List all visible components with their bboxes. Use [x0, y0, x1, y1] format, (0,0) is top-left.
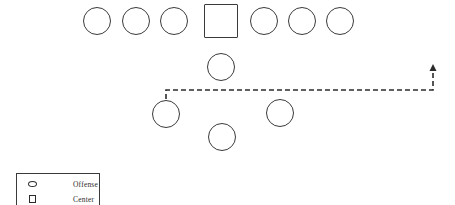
football-play-diagram: Offense Center [0, 0, 455, 205]
legend-item-center: Center [17, 192, 99, 205]
legend: Offense Center [16, 173, 100, 205]
motion-route-path [166, 68, 433, 99]
legend-label-offense: Offense [47, 180, 98, 189]
legend-item-offense: Offense [17, 177, 99, 191]
motion-route-arrowhead [430, 64, 437, 71]
oval-icon [17, 181, 47, 187]
legend-label-center: Center [47, 195, 94, 204]
square-icon [17, 195, 47, 203]
